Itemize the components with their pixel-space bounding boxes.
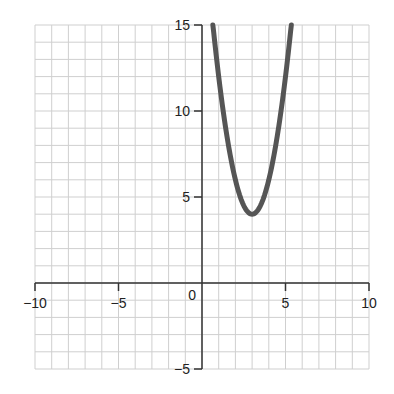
- parabola-chart: −10−50510−551015: [0, 0, 394, 394]
- x-tick-label: −5: [111, 295, 127, 311]
- x-tick-label: −10: [23, 295, 47, 311]
- origin-label: 0: [188, 287, 196, 303]
- y-tick-label: 10: [174, 103, 190, 119]
- x-tick-label: 10: [361, 295, 377, 311]
- y-tick-label: 15: [174, 17, 190, 33]
- y-tick-label: 5: [182, 189, 190, 205]
- y-tick-label: −5: [174, 361, 190, 377]
- x-tick-label: 5: [282, 295, 290, 311]
